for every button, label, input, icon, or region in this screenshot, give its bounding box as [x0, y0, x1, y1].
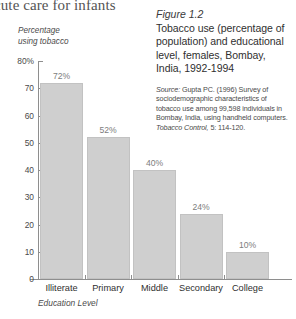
y-axis-tick-label: 0 [0, 274, 34, 284]
y-axis-tick-label: 20 [0, 220, 34, 230]
page-running-head: cute care for infants [0, 0, 116, 14]
y-axis-tick [38, 279, 43, 280]
bar [226, 252, 269, 279]
bar-value-label: 10% [226, 240, 269, 250]
y-axis-tick-label: 50 [0, 138, 34, 148]
x-axis-title: Education Level [38, 298, 98, 308]
y-axis-tick [38, 61, 43, 62]
bar-value-label: 72% [40, 71, 83, 81]
x-axis-tick [85, 275, 86, 280]
bar [87, 137, 130, 279]
x-axis-category-label: College [220, 283, 275, 293]
bar-value-label: 24% [180, 202, 223, 212]
bar [133, 170, 176, 279]
bar-value-label: 52% [87, 125, 130, 135]
x-axis-tick [178, 275, 179, 280]
bar-value-label: 40% [133, 158, 176, 168]
y-axis-tick-label: 60 [0, 111, 34, 121]
y-axis-tick-label: 40 [0, 165, 34, 175]
x-axis-line [30, 279, 292, 280]
y-axis-tick-label: 10 [0, 247, 34, 257]
x-axis-tick [224, 275, 225, 280]
bar-chart: Percentage using tobacco 80%706050403020… [0, 26, 296, 319]
figure-number: Figure 1.2 [156, 8, 292, 21]
plot-area: 80%706050403020100 72%Illiterate52%Prima… [0, 26, 296, 319]
x-axis-tick [131, 275, 132, 280]
bar [180, 214, 223, 279]
bar [40, 83, 83, 279]
y-axis-tick-label: 80% [0, 56, 34, 66]
y-axis-tick-label: 70 [0, 83, 34, 93]
y-axis-tick-label: 30 [0, 192, 34, 202]
